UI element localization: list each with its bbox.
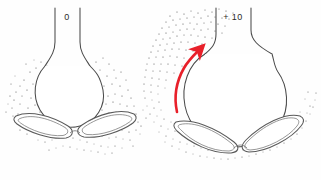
station-label-plus-ten: + 10 [223, 12, 242, 22]
station-label-zero: 0 [64, 12, 69, 22]
anatomical-diagram-svg: 0 [0, 0, 321, 180]
diagram-canvas: 0 [0, 0, 321, 180]
